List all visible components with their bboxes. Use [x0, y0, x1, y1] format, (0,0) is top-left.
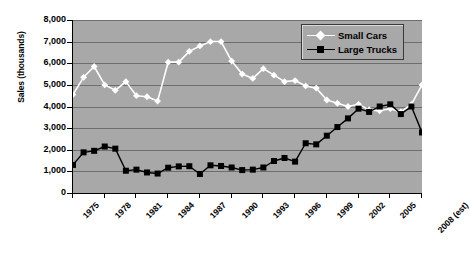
diamond-marker-icon [334, 100, 341, 107]
square-marker-icon [398, 111, 404, 117]
square-marker-icon [313, 141, 319, 147]
square-marker-icon [260, 164, 266, 170]
x-axis-tick-mark [421, 194, 422, 198]
y-axis-tick-label: 7,000 [30, 37, 66, 46]
legend-label-small-cars: Small Cars [336, 30, 387, 41]
y-axis-tick-label: 4,000 [30, 102, 66, 111]
diamond-marker-icon [207, 38, 214, 45]
square-marker-icon [102, 144, 108, 150]
square-marker-icon [73, 162, 76, 168]
square-marker-icon [345, 115, 351, 121]
y-axis-tick-mark [67, 107, 72, 108]
diamond-marker-icon [165, 59, 172, 66]
square-marker-icon [197, 171, 203, 177]
legend-label-large-trucks: Large Trucks [336, 44, 397, 55]
x-axis-tick-mark [231, 194, 232, 198]
x-axis-tick-label: 1990 [239, 200, 259, 220]
square-marker-icon [229, 164, 235, 170]
diamond-marker-icon [292, 77, 299, 84]
x-axis-tick-mark [389, 194, 390, 198]
y-axis-tick-mark [67, 85, 72, 86]
square-marker-icon [250, 167, 256, 173]
square-marker-icon [165, 165, 171, 171]
y-axis-tick-label: 2,000 [30, 145, 66, 154]
x-axis-tick-mark [326, 194, 327, 198]
y-axis-tick-labels: 8,0007,0006,0005,0004,0003,0002,0001,000… [28, 0, 66, 254]
square-marker-icon [271, 158, 277, 164]
square-marker-icon [334, 124, 340, 130]
square-marker-icon [81, 149, 87, 155]
y-axis-tick-label: 0 [30, 188, 66, 197]
x-axis-tick-mark [135, 194, 136, 198]
y-axis-tick-mark [67, 128, 72, 129]
legend-swatch-large-trucks [306, 43, 336, 55]
y-axis-tick-mark [67, 63, 72, 64]
square-marker-icon [387, 101, 393, 107]
x-axis-tick-mark [294, 194, 295, 198]
square-marker-icon [408, 104, 414, 110]
square-marker-icon [324, 133, 330, 139]
x-axis-tick-label: 2005 [398, 200, 418, 220]
y-axis-tick-mark [67, 171, 72, 172]
square-marker-icon [239, 167, 245, 173]
square-marker-icon [133, 167, 139, 173]
square-marker-icon [303, 140, 309, 146]
x-axis-tick-mark [104, 194, 105, 198]
square-marker-icon [282, 155, 288, 161]
diamond-marker-icon [345, 103, 352, 110]
square-marker-icon [123, 168, 129, 174]
x-axis-tick-mark [167, 194, 168, 198]
legend-item-large-trucks: Large Trucks [306, 42, 397, 56]
square-marker-icon [207, 162, 213, 168]
diamond-marker-icon [144, 93, 151, 100]
x-axis-tick-mark [358, 194, 359, 198]
diamond-marker-icon [302, 83, 309, 90]
diamond-marker-icon [316, 31, 326, 41]
x-axis-tick-label: 1984 [176, 200, 196, 220]
y-axis-tick-mark [67, 42, 72, 43]
y-axis-tick-label: 1,000 [30, 166, 66, 175]
square-marker-icon [366, 109, 372, 115]
y-axis-tick-label: 8,000 [30, 15, 66, 24]
x-axis-tick-mark [262, 194, 263, 198]
square-marker-icon [144, 169, 150, 175]
y-axis-title: Sales (thousands) [16, 12, 26, 122]
square-marker-icon [112, 146, 118, 152]
square-marker-icon [186, 163, 192, 169]
diamond-marker-icon [218, 38, 225, 45]
x-axis-tick-label: 2008 (est) [435, 200, 470, 235]
y-axis-tick-mark [67, 150, 72, 151]
diamond-marker-icon [154, 98, 161, 105]
square-marker-icon [292, 159, 298, 165]
square-marker-icon [218, 163, 224, 169]
square-marker-icon [317, 46, 324, 53]
y-axis-tick-label: 5,000 [30, 80, 66, 89]
x-axis-tick-mark [199, 194, 200, 198]
square-marker-icon [176, 163, 182, 169]
diamond-marker-icon [101, 81, 108, 88]
x-axis-tick-label: 1981 [144, 200, 164, 220]
square-marker-icon [91, 148, 97, 154]
x-axis-tick-label: 1999 [334, 200, 354, 220]
x-axis-tick-label: 1996 [303, 200, 323, 220]
x-axis-tick-label: 1978 [112, 200, 132, 220]
square-marker-icon [155, 171, 161, 177]
square-marker-icon [356, 106, 362, 112]
x-axis-tick-label: 1993 [271, 200, 291, 220]
y-axis-tick-label: 6,000 [30, 58, 66, 67]
legend-item-small-cars: Small Cars [306, 28, 397, 42]
chart-legend: Small Cars Large Trucks [301, 24, 404, 60]
y-axis-tick-mark [67, 193, 72, 194]
x-axis-tick-label: 2002 [366, 200, 386, 220]
x-axis-tick-mark [72, 194, 73, 198]
y-axis-tick-label: 3,000 [30, 123, 66, 132]
y-axis-tick-mark [67, 20, 72, 21]
square-marker-icon [377, 104, 383, 110]
square-marker-icon [419, 129, 422, 135]
x-axis-tick-label: 1987 [207, 200, 227, 220]
diamond-marker-icon [197, 43, 204, 50]
legend-swatch-small-cars [306, 29, 336, 41]
x-axis-tick-label: 1975 [81, 200, 101, 220]
